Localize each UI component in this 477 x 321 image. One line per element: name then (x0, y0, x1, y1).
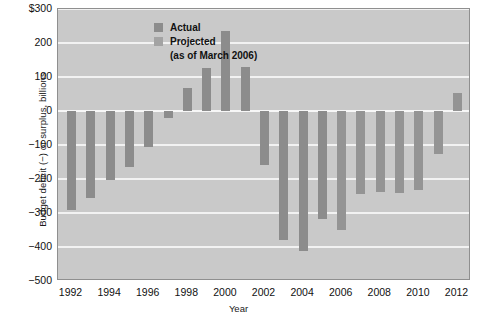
y-tick--100: −100 (0, 138, 52, 150)
bar-2005 (318, 111, 327, 219)
gridline--300 (58, 212, 469, 214)
bar-2004 (299, 111, 308, 251)
gridline-100 (58, 76, 469, 78)
bar-2012 (453, 93, 462, 111)
bar-2007 (356, 111, 365, 194)
gridline-200 (58, 42, 469, 44)
x-tick-1996: 1996 (128, 286, 168, 298)
y-tick--200: −200 (0, 172, 52, 184)
legend-item-projected: Projected (154, 36, 257, 48)
y-tick--300: −300 (0, 206, 52, 218)
x-tick-1992: 1992 (51, 286, 91, 298)
x-tick-1998: 1998 (166, 286, 206, 298)
bar-2002 (260, 111, 269, 165)
legend-swatch-projected-icon (154, 37, 163, 46)
bar-1999 (202, 68, 211, 111)
legend-item-actual: Actual (154, 22, 257, 34)
bar-1992 (67, 111, 76, 210)
bar-2010 (414, 111, 423, 190)
y-tick--400: −400 (0, 240, 52, 252)
bar-2008 (376, 111, 385, 192)
bar-1996 (144, 111, 153, 147)
bar-1993 (86, 111, 95, 198)
x-tick-2006: 2006 (321, 286, 361, 298)
x-axis-title: Year (0, 303, 477, 314)
bar-2001 (241, 67, 250, 111)
bar-1995 (125, 111, 134, 167)
bar-2006 (337, 111, 346, 230)
legend-swatch-actual-icon (154, 23, 163, 32)
x-tick-2012: 2012 (436, 286, 476, 298)
budget-deficit-bar-chart: Budget deficit (−) or surplus, billions … (0, 0, 477, 321)
y-tick-200: 200 (0, 36, 52, 48)
bar-2009 (395, 111, 404, 193)
bar-1997 (164, 111, 173, 118)
bar-1994 (106, 111, 115, 180)
y-tick--500: −500 (0, 274, 52, 286)
legend-label-projected: Projected (170, 36, 216, 48)
bar-2011 (434, 111, 443, 154)
chart-legend: Actual Projected (as of March 2006) (154, 22, 257, 62)
y-tick-300: $300 (0, 2, 52, 14)
legend-note-projected: (as of March 2006) (170, 50, 257, 62)
gridline-300 (58, 8, 469, 10)
x-tick-1994: 1994 (89, 286, 129, 298)
x-tick-2010: 2010 (398, 286, 438, 298)
y-tick-100: 100 (0, 70, 52, 82)
bar-1998 (183, 88, 192, 111)
plot-area: Actual Projected (as of March 2006) (57, 8, 470, 280)
x-tick-2000: 2000 (205, 286, 245, 298)
x-tick-2004: 2004 (282, 286, 322, 298)
gridline--400 (58, 246, 469, 248)
y-tick-0: 0 (0, 104, 52, 116)
bar-2003 (279, 111, 288, 240)
x-tick-2008: 2008 (359, 286, 399, 298)
gridline--200 (58, 178, 469, 180)
legend-label-actual: Actual (170, 22, 201, 34)
x-tick-2002: 2002 (244, 286, 284, 298)
